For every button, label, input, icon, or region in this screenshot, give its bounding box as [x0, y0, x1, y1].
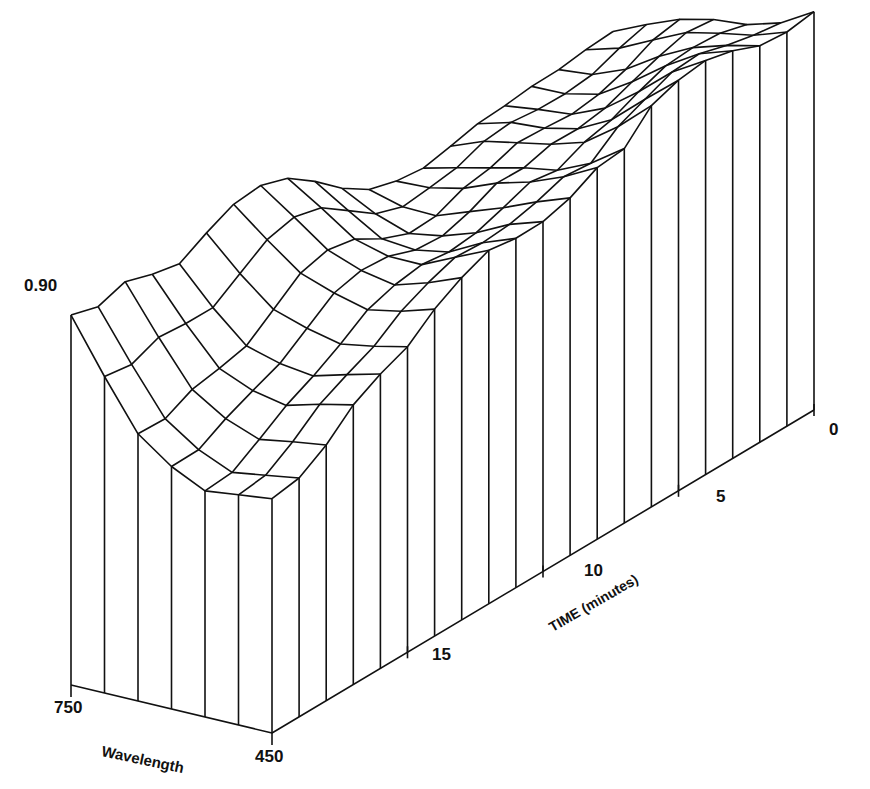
- mesh-line-wavelength: [105, 25, 647, 377]
- mesh-line-time: [98, 307, 299, 478]
- time-tick-5: 5: [716, 487, 725, 507]
- mesh-line-time: [613, 12, 814, 32]
- wavelength-tick-450: 450: [255, 747, 283, 767]
- time-tick-15: 15: [432, 645, 451, 665]
- surface-plot: [0, 0, 870, 789]
- time-tick-10: 10: [584, 561, 603, 581]
- wavelength-tick-750: 750: [54, 698, 82, 718]
- base-edge: [71, 410, 814, 733]
- mesh-line-time: [179, 264, 380, 376]
- time-tick-0: 0: [829, 420, 838, 440]
- mesh-line-time: [396, 168, 597, 189]
- mesh-line-wavelength: [239, 23, 781, 495]
- z-axis-tick-label: 0.90: [24, 276, 57, 296]
- mesh-line-wavelength: [71, 32, 613, 316]
- mesh-line-time: [532, 51, 733, 95]
- mesh-line-time: [342, 188, 543, 236]
- mesh-line-wavelength: [172, 20, 714, 467]
- mesh-line-time: [152, 274, 353, 405]
- mesh-line-wavelength: [138, 19, 680, 434]
